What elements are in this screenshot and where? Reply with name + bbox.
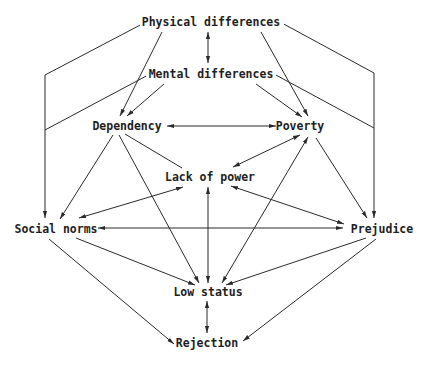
node-social-norms: Social norms: [14, 222, 97, 236]
nodes: Physical differences Mental differences …: [14, 12, 413, 350]
edge-poverty-low-status: [222, 137, 308, 283]
causal-diagram: Physical differences Mental differences …: [0, 0, 424, 367]
node-dependency: Dependency: [92, 119, 161, 133]
node-mental-differences: Mental differences: [149, 67, 274, 81]
node-poverty: Poverty: [276, 119, 325, 133]
edge-lack-of-power-social-norms: [79, 187, 183, 218]
node-prejudice: Prejudice: [351, 222, 413, 236]
edge-mental-dependency: [127, 84, 164, 116]
edge-prejudice-rejection: [243, 239, 376, 341]
edge-prejudice-low-status: [226, 238, 366, 285]
edge-lack-of-power-prejudice: [231, 186, 344, 224]
node-low-status: Low status: [173, 285, 242, 299]
node-rejection: Rejection: [176, 336, 238, 350]
edge-dependency-low-status: [119, 135, 199, 283]
edge-poverty-prejudice: [316, 138, 367, 218]
edge-social-norms-low-status: [76, 238, 195, 285]
node-physical-differences: Physical differences: [142, 15, 280, 29]
node-lack-of-power: Lack of power: [165, 170, 255, 184]
edge-dependency-social-norms: [60, 135, 113, 219]
edge-social-norms-rejection: [49, 239, 174, 344]
edge-mental-poverty: [256, 84, 302, 117]
edge-poverty-lack-of-power: [233, 135, 300, 167]
